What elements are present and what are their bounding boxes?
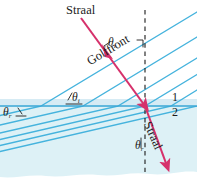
medium-2-label: 2 <box>172 106 178 118</box>
theta-subscript: r <box>141 145 144 153</box>
diagram-canvas <box>0 0 197 185</box>
angle-theta-i-lower-label: θi <box>72 92 80 105</box>
medium-1-label: 1 <box>172 91 178 103</box>
incident-ray-label: Straal <box>66 4 95 17</box>
theta-subscript: i <box>78 97 80 105</box>
theta-subscript: r <box>9 112 12 120</box>
refraction-diagram: Straal θi θi θr θr Golffront Straal 1 2 <box>0 0 197 185</box>
angle-theta-r-bottom-label: θr <box>135 140 143 153</box>
angle-theta-r-left-label: θr <box>3 107 11 120</box>
